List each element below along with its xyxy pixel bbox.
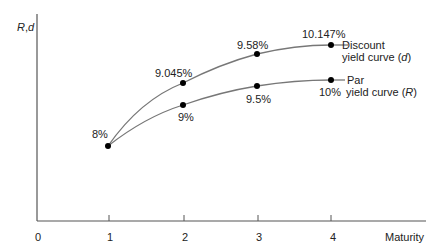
x-tick-label-1: 1 — [107, 231, 113, 243]
x-ticks — [109, 215, 331, 221]
x-tick-label-4: 4 — [330, 231, 336, 243]
par-point-label-2: 9% — [178, 111, 194, 123]
data-points — [105, 42, 334, 149]
discount-point-label-4: 10.147% — [302, 28, 345, 40]
x-tick-label-0: 0 — [35, 231, 41, 243]
x-tick-label-2: 2 — [182, 231, 188, 243]
par-point-label-3: 9.5% — [246, 93, 271, 105]
x-axis-label: Maturity — [385, 231, 424, 243]
discount-yield-curve — [108, 45, 331, 146]
par-yield-curve — [108, 80, 331, 146]
x-tick-label-3: 3 — [256, 231, 262, 243]
discount-curve-label: Discount yield curve (d) — [342, 39, 411, 63]
discount-point-label-3: 9.58% — [237, 39, 268, 51]
discount-point-label-2: 9.045% — [155, 67, 192, 79]
point-label-start: 8% — [92, 128, 108, 140]
y-axis-label: R,d — [17, 21, 34, 33]
yield-curve-chart — [0, 0, 443, 248]
par-point-label-4: 10% — [319, 86, 341, 98]
par-curve-label: Par yield curve (R) — [347, 74, 417, 98]
